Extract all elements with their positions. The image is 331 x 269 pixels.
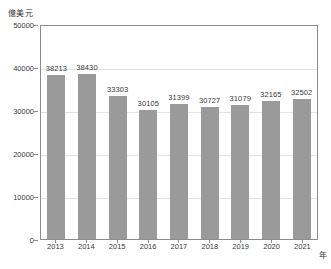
bar	[139, 110, 157, 239]
bar	[231, 105, 249, 239]
bar-slot: 33303	[103, 26, 133, 239]
y-axis-unit-label: 億美元	[8, 7, 33, 18]
bar-value-label: 30105	[138, 99, 159, 108]
y-axis-tick-mark	[34, 111, 38, 112]
bar-slot: 38430	[72, 26, 102, 239]
plot-area: 3821338430333033010531399307273107932165…	[40, 25, 318, 240]
bar-slot: 32502	[287, 26, 317, 239]
y-axis-tick-label: 40000	[13, 64, 34, 73]
bar	[201, 107, 219, 239]
x-axis-tick-labels: 201320142015201620172018201920202021	[40, 242, 318, 258]
y-axis-tick-mark	[34, 154, 38, 155]
y-axis-tick-mark	[34, 68, 38, 69]
x-axis-tick-label: 2019	[226, 242, 256, 251]
bar-slot: 31399	[164, 26, 194, 239]
bar	[78, 74, 96, 239]
x-axis-tick-label: 2016	[133, 242, 163, 251]
y-axis-tick-mark	[34, 25, 38, 26]
x-axis-tick-label: 2020	[257, 242, 287, 251]
bar-slot: 32165	[256, 26, 286, 239]
bar	[109, 96, 127, 239]
x-axis-tick-label: 2014	[71, 242, 101, 251]
x-axis-tick-label: 2021	[287, 242, 317, 251]
bar-value-label: 38430	[76, 63, 97, 72]
y-axis-tick-mark	[34, 240, 38, 241]
bar-slot: 38213	[41, 26, 71, 239]
bar-slot: 30105	[133, 26, 163, 239]
bar-value-label: 30727	[199, 96, 220, 105]
bar	[262, 101, 280, 239]
y-axis-tick-label: 30000	[13, 107, 34, 116]
x-axis-tick-label: 2018	[195, 242, 225, 251]
bar-value-label: 32165	[260, 90, 281, 99]
y-axis-tick-labels: 50000400003000020000100000	[0, 25, 38, 240]
bar	[47, 75, 65, 239]
bar-value-label: 38213	[46, 64, 67, 73]
bar-value-label: 31399	[168, 93, 189, 102]
y-axis-tick-label: 50000	[13, 21, 34, 30]
bar	[170, 104, 188, 239]
x-axis-tick-label: 2015	[102, 242, 132, 251]
bar	[293, 99, 311, 239]
bars-container: 3821338430333033010531399307273107932165…	[41, 26, 317, 239]
bar-value-label: 31079	[230, 94, 251, 103]
bar-chart: 億美元 50000400003000020000100000 382133843…	[0, 0, 331, 269]
bar-slot: 31079	[225, 26, 255, 239]
bar-slot: 30727	[195, 26, 225, 239]
x-axis-unit-label: 年	[319, 249, 327, 260]
y-axis-tick-label: 20000	[13, 150, 34, 159]
x-axis-tick-label: 2013	[40, 242, 70, 251]
y-axis-tick-mark	[34, 197, 38, 198]
bar-value-label: 32502	[291, 88, 312, 97]
bar-value-label: 33303	[107, 85, 128, 94]
x-axis-tick-label: 2017	[164, 242, 194, 251]
y-axis-tick-label: 10000	[13, 193, 34, 202]
